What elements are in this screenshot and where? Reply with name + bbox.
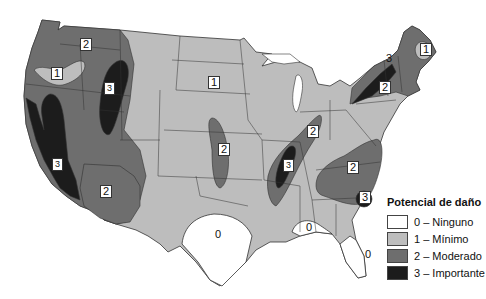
region-label-charleston: 3 (359, 191, 371, 204)
legend-title: Potencial de daño (387, 196, 486, 208)
swatch-level-3 (387, 266, 408, 280)
legend-label: 0 – Ninguno (414, 216, 473, 228)
legend-label: 2 – Moderado (414, 250, 482, 262)
region-label-ohio-valley: 2 (307, 125, 319, 138)
region-label-st-lawrence: 3 (384, 53, 394, 64)
region-label-florida: 0 (363, 249, 373, 260)
legend-item-minimo: 1 – Mínimo (387, 230, 486, 247)
region-label-carolinas: 2 (347, 161, 359, 174)
region-label-california: 3 (52, 158, 63, 171)
region-label-arizona: 2 (100, 185, 112, 198)
legend-label: 1 – Mínimo (414, 233, 468, 245)
region-label-plains: 2 (218, 143, 230, 156)
region-label-gulf: 0 (304, 222, 314, 233)
region-label-maine: 1 (420, 43, 432, 56)
region-label-texas: 0 (213, 229, 223, 240)
region-label-pacific-nw: 2 (80, 38, 92, 51)
swatch-level-2 (387, 249, 408, 263)
zone-0-texas (182, 214, 252, 286)
legend: Potencial de daño 0 – Ninguno 1 – Mínimo… (387, 196, 486, 281)
swatch-level-1 (387, 232, 408, 246)
legend-item-ninguno: 0 – Ninguno (387, 213, 486, 230)
legend-item-importante: 3 – Importante (387, 264, 486, 281)
swatch-level-0 (387, 215, 408, 229)
region-label-dakota: 1 (208, 76, 220, 89)
region-label-new-madrid: 3 (283, 159, 294, 172)
region-label-northeast: 2 (379, 81, 391, 94)
legend-item-moderado: 2 – Moderado (387, 247, 486, 264)
legend-label: 3 – Importante (414, 267, 485, 279)
region-label-oregon: 1 (51, 67, 63, 80)
region-label-intermountain: 3 (104, 82, 115, 95)
